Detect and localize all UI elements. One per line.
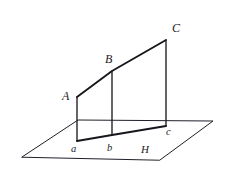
figure-canvas	[0, 0, 235, 171]
plane-h-face	[22, 120, 213, 160]
label-B: B	[105, 53, 112, 65]
label-c: c	[166, 127, 171, 138]
upper-edge-ABC	[77, 40, 166, 97]
label-b: b	[107, 143, 112, 154]
geometry-figure: C B A c a b H	[0, 0, 235, 171]
label-A: A	[62, 90, 69, 102]
label-H: H	[141, 144, 149, 155]
label-a: a	[71, 144, 76, 155]
label-C: C	[172, 22, 180, 34]
